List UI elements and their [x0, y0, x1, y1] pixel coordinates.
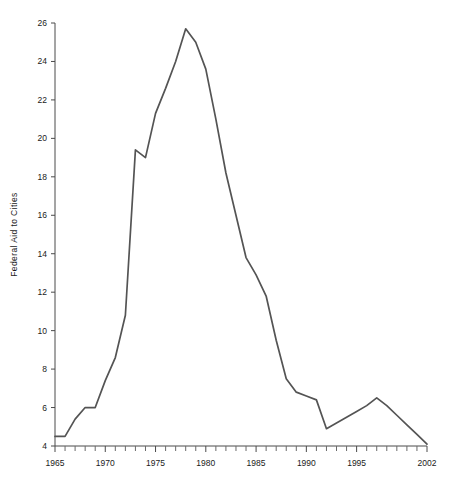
y-tick-label: 8 — [42, 364, 47, 374]
y-tick-label: 20 — [38, 133, 48, 143]
y-axis: 468101214161820222426 — [38, 18, 55, 451]
y-axis-ticks — [51, 23, 55, 446]
x-axis-ticks — [55, 446, 427, 452]
y-axis-title-text: Federal Aid to Cities — [9, 192, 19, 276]
x-tick-label: 1970 — [96, 458, 115, 468]
x-tick-label: 2002 — [418, 458, 437, 468]
chart-figure: 468101214161820222426 196519701975198019… — [0, 0, 450, 479]
y-axis-tick-labels: 468101214161820222426 — [38, 18, 48, 451]
y-tick-label: 22 — [38, 95, 48, 105]
y-tick-label: 26 — [38, 18, 48, 28]
x-axis: 19651970197519801985199019952002 — [46, 446, 437, 468]
y-tick-label: 6 — [42, 403, 47, 413]
x-axis-tick-labels: 19651970197519801985199019952002 — [46, 458, 437, 468]
x-tick-label: 1995 — [347, 458, 366, 468]
cropped-text-fragment — [360, 1, 362, 8]
x-tick-label: 1965 — [46, 458, 65, 468]
y-tick-label: 12 — [38, 287, 48, 297]
y-tick-label: 24 — [38, 56, 48, 66]
y-tick-label: 14 — [38, 249, 48, 259]
x-tick-label: 1985 — [247, 458, 266, 468]
y-tick-label: 18 — [38, 172, 48, 182]
y-tick-label: 4 — [42, 441, 47, 451]
y-tick-label: 16 — [38, 210, 48, 220]
line-chart: 468101214161820222426 196519701975198019… — [0, 0, 450, 479]
x-tick-label: 1980 — [196, 458, 215, 468]
cropped-text-fragment — [300, 1, 302, 8]
data-series-group — [55, 29, 427, 444]
data-series-line — [55, 29, 427, 444]
y-tick-label: 10 — [38, 326, 48, 336]
y-axis-title: Federal Aid to Cities — [9, 192, 19, 276]
x-tick-label: 1990 — [297, 458, 316, 468]
x-tick-label: 1975 — [146, 458, 165, 468]
cropped-title-artifact — [300, 1, 362, 8]
